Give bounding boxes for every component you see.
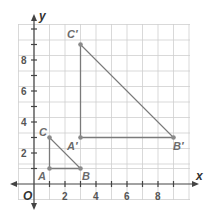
point-a-prime xyxy=(78,135,83,140)
y-axis-arrow-down xyxy=(31,203,37,210)
label-c-prime: C′ xyxy=(67,28,79,40)
x-tick-8: 8 xyxy=(155,191,161,202)
label-b-prime: B′ xyxy=(173,140,185,152)
triangle-abc: A B C xyxy=(37,126,90,182)
x-axis-arrow-left xyxy=(10,181,17,187)
label-a-prime: A′ xyxy=(66,140,79,152)
label-a: A xyxy=(37,170,46,182)
label-c: C xyxy=(39,126,48,138)
x-axis-label: x xyxy=(195,169,204,183)
point-c-prime xyxy=(78,42,83,47)
origin-label: O xyxy=(23,189,33,203)
x-tick-4: 4 xyxy=(93,191,99,202)
y-tick-6: 6 xyxy=(21,86,27,97)
point-a xyxy=(47,166,52,171)
y-tick-2: 2 xyxy=(21,148,27,159)
y-axis-label: y xyxy=(38,9,47,23)
y-axis-arrow-up xyxy=(31,14,37,21)
coordinate-grid: x y O 2 4 6 8 2 4 6 8 A B C A′ B′ C′ xyxy=(0,0,205,220)
point-c xyxy=(47,135,52,140)
y-tick-4: 4 xyxy=(21,117,27,128)
y-tick-8: 8 xyxy=(21,55,27,66)
x-tick-6: 6 xyxy=(124,191,130,202)
label-b: B xyxy=(82,170,90,182)
x-tick-2: 2 xyxy=(62,191,68,202)
